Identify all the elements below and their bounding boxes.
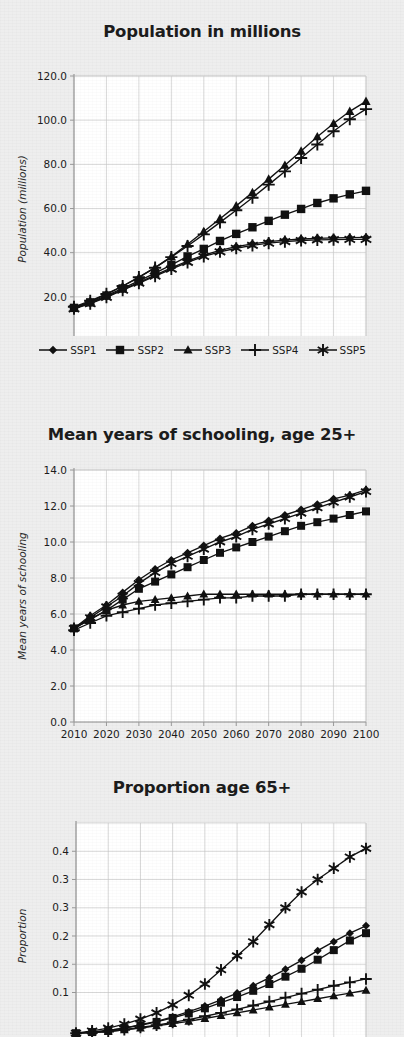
legend-label: SSP5 <box>340 344 366 356</box>
marker-square <box>232 543 240 551</box>
legend-item-ssp4[interactable]: SSP4 <box>240 342 298 358</box>
legend-item-ssp5[interactable]: SSP5 <box>308 342 366 358</box>
chart-title-population: Population in millions <box>0 22 404 41</box>
y-tick-label: 60.0 <box>44 202 67 214</box>
y-tick-label: 80.0 <box>44 158 67 170</box>
y-tick-label: 0.3 <box>52 901 69 913</box>
y-tick-label: 14.0 <box>44 464 67 476</box>
marker-square <box>330 946 338 954</box>
x-tick-label: 2100 <box>353 728 380 739</box>
x-tick-label: 2080 <box>288 728 315 739</box>
chart-svg-schooling: 0.02.04.06.08.010.012.014.02010202020302… <box>0 444 404 739</box>
marker-square <box>281 527 289 535</box>
plot-area-schooling: Mean years of schooling 0.02.04.06.08.01… <box>0 444 404 739</box>
marker-square <box>329 194 337 202</box>
y-tick-label: 0.2 <box>52 958 69 970</box>
y-tick-label: 0.3 <box>52 873 69 885</box>
marker-square <box>248 538 256 546</box>
plot-area-population: Population (millions) 0.020.040.060.080.… <box>0 41 404 336</box>
x-tick-label: 2050 <box>190 728 217 739</box>
legend-marker-plus-icon <box>249 344 261 356</box>
legend-item-ssp1[interactable]: SSP1 <box>38 342 96 358</box>
chart-title-schooling: Mean years of schooling, age 25+ <box>0 425 404 444</box>
legend-item-ssp2[interactable]: SSP2 <box>105 342 163 358</box>
legend-label: SSP2 <box>137 344 163 356</box>
marker-square <box>298 965 306 973</box>
x-tick-label: 2060 <box>223 728 250 739</box>
chart-svg-population: 0.020.040.060.080.0100.0120.020102020203… <box>0 41 404 336</box>
y-tick-label: 0.0 <box>50 716 67 728</box>
marker-square <box>151 578 159 586</box>
marker-square <box>167 570 175 578</box>
marker-square <box>248 223 256 231</box>
y-tick-label: 40.0 <box>44 246 67 258</box>
y-tick-label: 0.1 <box>52 986 69 998</box>
legend-marker-triangle-icon <box>173 342 203 358</box>
y-tick-label: 0.2 <box>52 930 69 942</box>
legend-marker-diamond-icon <box>49 346 57 354</box>
marker-square <box>135 585 143 593</box>
plot-area-proportion: Proportion 0.10.20.20.30.30.4 <box>0 797 404 1037</box>
figure-schooling: Mean years of schooling, age 25+ Mean ye… <box>0 425 404 739</box>
y-tick-label: 120.0 <box>37 70 67 82</box>
y-tick-label: 20.0 <box>44 291 67 303</box>
marker-square <box>346 937 354 945</box>
marker-square <box>281 973 289 981</box>
y-tick-label: 10.0 <box>44 536 67 548</box>
chart-svg-proportion: 0.10.20.20.30.30.4 <box>0 797 404 1037</box>
legend-marker-plus-icon <box>240 342 270 358</box>
y-axis-label-population: Population (millions) <box>16 155 28 263</box>
marker-square <box>330 515 338 523</box>
figure-population: Population in millions Population (milli… <box>0 22 404 358</box>
marker-square <box>346 511 354 519</box>
x-tick-label: 2040 <box>158 728 185 739</box>
marker-square <box>264 217 272 225</box>
y-tick-label: 4.0 <box>50 644 67 656</box>
legend-label: SSP4 <box>272 344 298 356</box>
y-tick-label: 2.0 <box>50 680 67 692</box>
marker-square <box>297 205 305 213</box>
x-tick-label: 2030 <box>126 728 153 739</box>
marker-square <box>216 237 224 245</box>
marker-square <box>232 230 240 238</box>
y-tick-label: 12.0 <box>44 500 67 512</box>
marker-square <box>200 556 208 564</box>
marker-square <box>313 199 321 207</box>
y-axis-label-proportion: Proportion <box>16 909 28 964</box>
marker-square <box>265 533 273 541</box>
marker-square <box>313 518 321 526</box>
marker-square <box>362 929 370 937</box>
marker-square <box>281 210 289 218</box>
marker-square <box>362 507 370 515</box>
legend-population: SSP1SSP2SSP3SSP4SSP5 <box>0 342 404 358</box>
legend-marker-asterisk-icon <box>308 342 338 358</box>
x-tick-label: 2010 <box>61 728 88 739</box>
legend-marker-diamond-icon <box>38 342 68 358</box>
marker-square <box>297 522 305 530</box>
marker-square <box>184 563 192 571</box>
y-tick-label: 6.0 <box>50 608 67 620</box>
legend-label: SSP3 <box>205 344 231 356</box>
y-axis-label-schooling: Mean years of schooling <box>16 532 28 660</box>
figure-proportion: Proportion age 65+ Proportion 0.10.20.20… <box>0 778 404 1037</box>
marker-square <box>362 187 370 195</box>
legend-marker-square-icon <box>116 346 124 354</box>
y-tick-label: 100.0 <box>37 114 67 126</box>
y-tick-label: 0.0 <box>50 335 67 336</box>
legend-label: SSP1 <box>70 344 96 356</box>
marker-square <box>314 956 322 964</box>
chart-title-proportion: Proportion age 65+ <box>0 778 404 797</box>
legend-marker-square-icon <box>105 342 135 358</box>
x-tick-label: 2090 <box>320 728 347 739</box>
y-tick-label: 8.0 <box>50 572 67 584</box>
y-tick-label: 0.4 <box>52 845 69 857</box>
legend-item-ssp3[interactable]: SSP3 <box>173 342 231 358</box>
x-tick-label: 2070 <box>255 728 282 739</box>
marker-square <box>346 190 354 198</box>
marker-square <box>216 549 224 557</box>
x-tick-label: 2020 <box>93 728 120 739</box>
